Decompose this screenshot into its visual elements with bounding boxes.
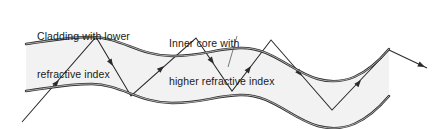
core-label: Inner core with higher refractive index [169, 12, 275, 112]
core-label-line1: Inner core with [169, 37, 275, 50]
fibre-optic-diagram: Cladding with lower refractive index Inn… [0, 0, 441, 129]
cladding-label: Cladding with lower refractive index [37, 5, 130, 105]
cladding-label-line2: refractive index [37, 68, 130, 81]
ray-arrowhead [417, 62, 426, 70]
core-label-line2: higher refractive index [169, 75, 275, 88]
cladding-label-line1: Cladding with lower [37, 30, 130, 43]
